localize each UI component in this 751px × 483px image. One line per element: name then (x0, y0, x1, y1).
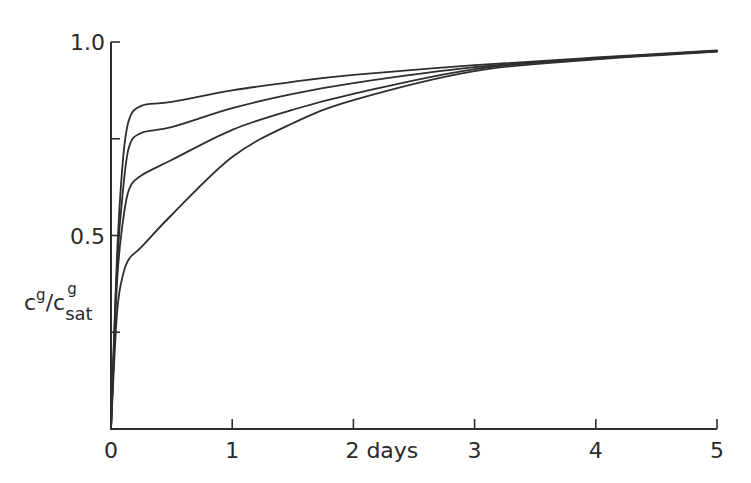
x-tick-label: 3 (468, 438, 482, 463)
ylabel-denominator-scripts: gsat (65, 292, 92, 314)
ylabel-numerator-sup: g (36, 286, 46, 304)
y-tick-label: 0.5 (70, 224, 105, 249)
y-tick-label: 1.0 (70, 30, 105, 55)
axes (111, 42, 717, 429)
ylabel-denominator: c (53, 290, 65, 315)
ylabel-denominator-sup: g (67, 282, 77, 297)
y-axis-label: cg/cgsat (24, 290, 93, 314)
series-group (111, 51, 717, 429)
tick-labels: 012 days3450.51.0 (70, 30, 724, 463)
x-tick-label: 2 days (345, 438, 418, 463)
x-tick-label: 4 (589, 438, 603, 463)
ylabel-slash: / (46, 290, 53, 315)
ylabel-denominator-sub: sat (65, 303, 92, 324)
series-line-curve-3 (111, 51, 717, 429)
ylabel-numerator: c (24, 290, 36, 315)
x-tick-label: 0 (104, 438, 118, 463)
series-line-curve-1 (111, 51, 717, 429)
series-line-curve-4 (111, 52, 717, 429)
series-line-curve-2 (111, 51, 717, 429)
x-tick-label: 1 (225, 438, 239, 463)
line-chart: 012 days3450.51.0 (0, 0, 751, 483)
chart: 012 days3450.51.0 cg/cgsat (0, 0, 751, 483)
x-tick-label: 5 (710, 438, 724, 463)
